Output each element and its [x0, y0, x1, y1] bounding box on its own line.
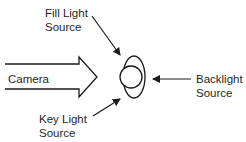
key-light-label-line2: Source	[39, 126, 87, 140]
lighting-diagram	[0, 0, 246, 142]
fill-light-label-line2: Source	[45, 20, 88, 34]
key-light-label-line1: Key Light	[39, 112, 87, 126]
camera-label-line1: Camera	[8, 72, 49, 86]
backlight-label-line1: Backlight	[196, 72, 243, 86]
backlight-label: Backlight Source	[196, 72, 243, 100]
fill-light-label: Fill Light Source	[45, 6, 88, 34]
fill-light-arrow-icon	[92, 16, 120, 55]
subject-head-icon	[120, 56, 145, 98]
key-light-label: Key Light Source	[39, 112, 87, 140]
fill-light-label-line1: Fill Light	[45, 6, 88, 20]
backlight-label-line2: Source	[196, 86, 243, 100]
camera-label: Camera	[8, 72, 49, 86]
key-light-arrow-icon	[93, 99, 120, 116]
